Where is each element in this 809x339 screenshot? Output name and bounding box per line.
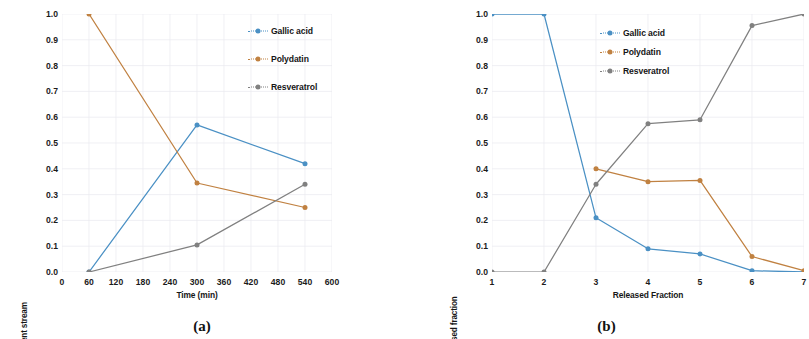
legend-item-label: Gallic acid	[623, 28, 665, 38]
x-tick-label: 300	[190, 277, 204, 287]
y-tick-label: 0.1	[37, 241, 58, 251]
legend-item-label: Gallic acid	[271, 26, 313, 36]
legend: Gallic acidPolydatinResveratrol	[248, 26, 317, 92]
x-tick-label: 0	[60, 277, 65, 287]
panel-b: Mole fraction of the polyphenols in the …	[404, 0, 809, 339]
legend-marker-icon	[248, 55, 268, 64]
panel-a-x-axis-title: Time (min)	[62, 290, 332, 300]
data-point	[594, 182, 599, 187]
legend-item[interactable]: Gallic acid	[600, 28, 669, 38]
series-polydatin	[594, 166, 805, 272]
data-point	[492, 14, 495, 17]
data-point	[303, 205, 308, 210]
legend-item[interactable]: Resveratrol	[248, 82, 317, 92]
data-point	[594, 215, 599, 220]
data-point	[594, 166, 599, 171]
x-tick-label: 240	[163, 277, 177, 287]
data-point	[195, 122, 200, 127]
y-tick-label: 0.1	[467, 241, 488, 251]
x-tick-label: 4	[646, 277, 651, 287]
legend-item[interactable]: Polydatin	[248, 54, 317, 64]
y-tick-label: 0.7	[467, 86, 488, 96]
x-tick-label: 180	[136, 277, 150, 287]
x-tick-label: 540	[298, 277, 312, 287]
data-point	[750, 23, 755, 28]
x-tick-label: 6	[750, 277, 755, 287]
y-tick-label: 0.3	[37, 190, 58, 200]
x-tick-label: 360	[217, 277, 231, 287]
legend-marker-icon	[600, 48, 620, 57]
panel-a-caption: (a)	[0, 318, 404, 335]
x-tick-label: 1	[490, 277, 495, 287]
data-point	[802, 14, 805, 17]
data-point	[646, 121, 651, 126]
y-tick-label: 0.2	[467, 215, 488, 225]
y-tick-label: 0.0	[467, 267, 488, 277]
y-tick-label: 0.8	[37, 61, 58, 71]
legend-item[interactable]: Resveratrol	[600, 66, 669, 76]
y-tick-label: 0.6	[37, 112, 58, 122]
y-tick-label: 1.0	[467, 9, 488, 19]
data-point	[698, 117, 703, 122]
x-tick-label: 600	[325, 277, 339, 287]
data-point	[492, 270, 495, 273]
data-point	[750, 254, 755, 259]
y-tick-label: 0.7	[37, 86, 58, 96]
panel-a: Mole fraction of the polyphenols in the …	[0, 0, 404, 339]
legend-marker-icon	[600, 67, 620, 76]
data-point	[195, 242, 200, 247]
y-tick-label: 0.4	[467, 164, 488, 174]
legend-item-label: Resveratrol	[623, 66, 669, 76]
legend-item-label: Polydatin	[623, 47, 661, 57]
figure-two-panel-line-charts: Mole fraction of the polyphenols in the …	[0, 0, 809, 339]
data-point	[303, 161, 308, 166]
y-tick-label: 0.5	[37, 138, 58, 148]
panel-b-x-axis-title: Released Fraction	[492, 290, 804, 300]
panel-b-caption: (b)	[404, 318, 809, 335]
data-point	[802, 268, 805, 272]
data-point	[542, 14, 547, 17]
legend: Gallic acidPolydatinResveratrol	[600, 28, 669, 76]
x-tick-label: 120	[109, 277, 123, 287]
data-point	[750, 268, 755, 272]
y-tick-label: 0.4	[37, 164, 58, 174]
legend-marker-icon	[600, 29, 620, 38]
legend-marker-icon	[248, 27, 268, 36]
data-point	[698, 178, 703, 183]
y-tick-label: 0.8	[467, 61, 488, 71]
legend-item[interactable]: Polydatin	[600, 47, 669, 57]
x-tick-label: 420	[244, 277, 258, 287]
y-tick-label: 0.3	[467, 190, 488, 200]
x-tick-label: 480	[271, 277, 285, 287]
x-tick-label: 60	[84, 277, 94, 287]
x-tick-label: 3	[594, 277, 599, 287]
legend-item-label: Resveratrol	[271, 82, 317, 92]
y-tick-label: 0.9	[37, 35, 58, 45]
legend-item-label: Polydatin	[271, 54, 309, 64]
legend-item[interactable]: Gallic acid	[248, 26, 317, 36]
y-tick-label: 0.0	[37, 267, 58, 277]
legend-marker-icon	[248, 83, 268, 92]
y-tick-label: 0.6	[467, 112, 488, 122]
x-tick-label: 2	[542, 277, 547, 287]
data-point	[698, 251, 703, 256]
x-tick-label: 7	[802, 277, 807, 287]
data-point	[646, 246, 651, 251]
x-tick-label: 5	[698, 277, 703, 287]
y-tick-label: 0.2	[37, 215, 58, 225]
y-tick-label: 0.9	[467, 35, 488, 45]
y-tick-label: 1.0	[37, 9, 58, 19]
y-tick-label: 0.5	[467, 138, 488, 148]
data-point	[195, 180, 200, 185]
data-point	[646, 179, 651, 184]
data-point	[303, 182, 308, 187]
